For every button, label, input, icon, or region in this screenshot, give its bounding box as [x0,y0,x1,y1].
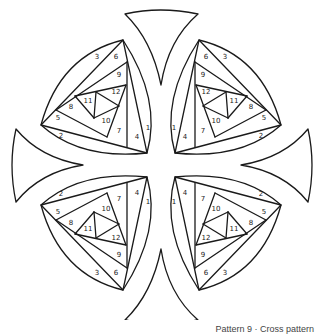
piece-label: 11 [84,225,93,233]
piece-label: 1 [172,124,176,132]
main-triangle [175,40,281,153]
piece-label: 7 [117,195,121,203]
cross-arms [12,10,312,320]
piece-label: 3 [223,53,227,61]
piece-label: 9 [117,71,121,79]
piece-label: 7 [117,127,121,135]
piece-label: 2 [59,132,63,140]
left-arm [12,129,83,202]
piece-label: 4 [183,189,188,197]
piece-label: 1 [172,198,176,206]
cross-pattern-diagram: 1 2 3 4 5 6 7 8 9 10 11 12 1 2 3 4 5 6 7… [0,0,320,320]
piece-label: 12 [202,88,211,96]
piece-label: 8 [249,103,253,111]
piece-label: 2 [59,190,63,198]
piece-label: 4 [183,133,188,141]
piece-label: 6 [114,53,119,61]
piece-line [94,212,96,238]
top-arm [125,10,198,85]
piece-line [56,193,107,220]
piece-label: 12 [202,234,211,242]
piece-label: 6 [204,53,209,61]
piece-label: 2 [259,190,263,198]
piece-label: 5 [262,208,266,216]
piece-label: 10 [212,205,221,213]
piece-label: 9 [117,251,121,259]
piece-label: 10 [212,117,221,125]
piece-label: 7 [201,127,205,135]
piece-label: 3 [95,53,99,61]
piece-label: 5 [262,114,266,122]
piece-label: 3 [223,269,227,277]
piece-label: 11 [230,225,239,233]
piece-label: 7 [201,195,205,203]
piece-label: 12 [112,234,121,242]
piece-label: 8 [249,219,253,227]
piece-label: 9 [201,71,205,79]
piece-label: 4 [135,189,140,197]
piece-label: 5 [56,114,60,122]
piece-line [56,110,107,137]
piece-label: 10 [102,205,111,213]
piece-label: 6 [114,269,119,277]
piece-label: 5 [56,208,60,216]
piece-label: 3 [95,269,99,277]
piece-label: 2 [259,132,263,140]
piece-label: 9 [201,251,205,259]
piece-line [226,92,228,118]
piece-label: 11 [84,97,93,105]
right-arm [241,129,312,202]
piece-label: 10 [102,117,111,125]
piece-label: 6 [204,269,209,277]
piece-line [94,92,96,118]
piece-label: 1 [146,198,150,206]
piece-label: 1 [146,124,150,132]
piece-label: 11 [230,97,239,105]
quadrant-top-left: 1 2 3 4 5 6 7 8 9 10 11 12 [41,40,151,154]
main-triangle [175,177,281,290]
piece-label: 4 [135,133,140,141]
figure-caption: Pattern 9 · Cross pattern [215,324,314,334]
piece-line [226,212,228,238]
bottom-arm [125,249,198,320]
piece-label: 8 [69,219,73,227]
piece-label: 12 [112,88,121,96]
piece-label: 8 [69,103,73,111]
